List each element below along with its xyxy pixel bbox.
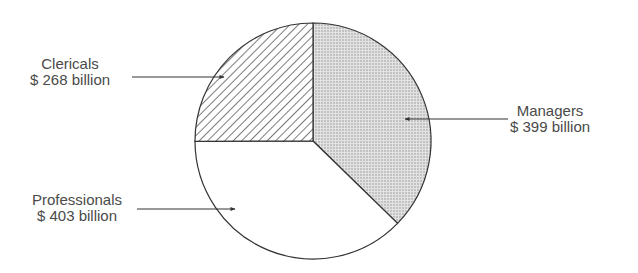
clericals-name: Clericals: [30, 56, 110, 72]
managers-name: Managers: [510, 103, 590, 119]
slice-clericals: [195, 23, 313, 141]
pie-chart: [0, 0, 638, 273]
managers-label: Managers $ 399 billion: [510, 103, 590, 135]
pie-slices: [195, 23, 431, 259]
managers-value: $ 399 billion: [510, 119, 590, 135]
professionals-name: Professionals: [32, 192, 122, 208]
clericals-value: $ 268 billion: [30, 72, 110, 88]
clericals-label: Clericals $ 268 billion: [30, 56, 110, 88]
professionals-value: $ 403 billion: [32, 208, 122, 224]
professionals-label: Professionals $ 403 billion: [32, 192, 122, 224]
